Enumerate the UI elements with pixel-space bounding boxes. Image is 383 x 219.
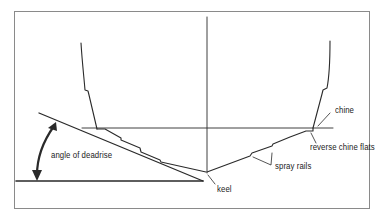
- chine-leader: [318, 113, 330, 126]
- label-angle-of-deadrise: angle of deadrise: [51, 149, 112, 160]
- label-reverse-chine-flats: reverse chine flats: [310, 141, 375, 152]
- label-chine: chine: [335, 104, 354, 115]
- hull-left-bottom: [97, 129, 206, 172]
- label-spray-rails: spray rails: [275, 160, 311, 171]
- deadrise-slope-line: [39, 113, 203, 181]
- hull-right-side: [313, 41, 330, 128]
- hull-diagram: [0, 0, 383, 219]
- keel-leader: [208, 175, 215, 184]
- label-keel: keel: [217, 183, 232, 194]
- arrowhead-down: [32, 170, 42, 181]
- hull-left-side: [81, 43, 97, 129]
- spray-rails-leader: [253, 153, 272, 165]
